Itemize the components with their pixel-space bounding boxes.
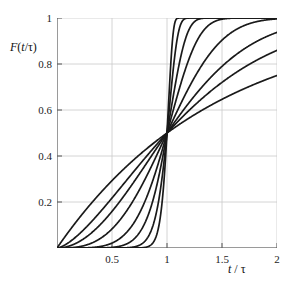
x-tick-label-0.5: 0.5 bbox=[105, 254, 119, 265]
x-tick-label-2: 2 bbox=[274, 254, 280, 265]
y-tick-label-0.2: 0.2 bbox=[14, 197, 52, 208]
y-axis-title-close-paren: ) bbox=[33, 40, 37, 54]
y-tick-label-1: 1 bbox=[14, 13, 52, 24]
y-tick-label-0.6: 0.6 bbox=[14, 105, 52, 116]
plot-area bbox=[57, 18, 277, 248]
y-tick-label-0.4: 0.4 bbox=[14, 151, 52, 162]
plot-canvas bbox=[57, 18, 277, 248]
x-tick-label-1: 1 bbox=[164, 254, 170, 265]
y-tick-label-0.8: 0.8 bbox=[14, 59, 52, 70]
chart-figure: F(t/τ) t / τ 0.20.40.60.81 0.511.52 bbox=[0, 0, 294, 289]
x-tick-label-1.5: 1.5 bbox=[215, 254, 229, 265]
y-axis-title: F(t/τ) bbox=[10, 41, 37, 53]
x-axis-title: t / τ bbox=[228, 263, 246, 275]
x-axis-title-tau: τ bbox=[241, 262, 246, 276]
x-axis-title-slash: / bbox=[234, 262, 237, 276]
